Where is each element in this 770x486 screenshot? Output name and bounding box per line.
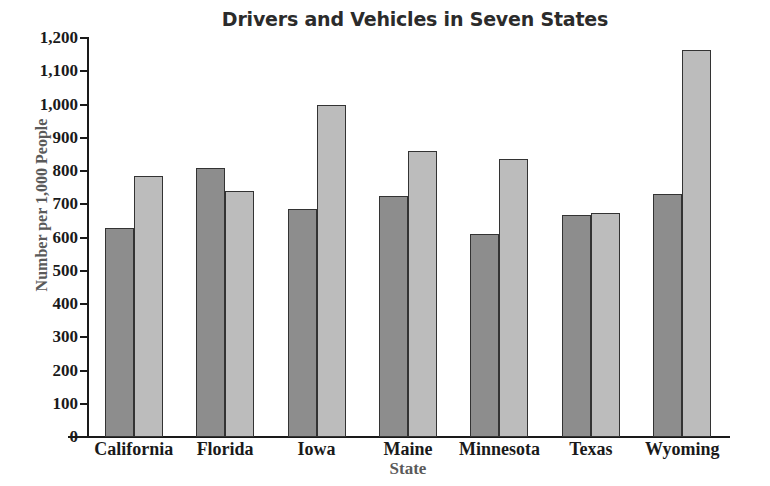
bar-iowa-vehicles: [317, 105, 346, 438]
bar-california-drivers: [105, 228, 134, 437]
bar-maine-vehicles: [408, 151, 437, 437]
bar-wyoming-drivers: [653, 194, 682, 437]
y-axis-tick-label: 100: [2, 394, 78, 414]
bar-wyoming-vehicles: [682, 50, 711, 437]
x-axis-title: State: [88, 459, 728, 479]
bar-minnesota-vehicles: [499, 159, 528, 437]
x-axis-label-wyoming: Wyoming: [625, 439, 740, 460]
bar-florida-drivers: [196, 168, 225, 437]
bar-texas-vehicles: [591, 213, 620, 437]
page-title: Drivers and Vehicles in Seven States: [185, 8, 645, 30]
y-axis-title: Number per 1,000 People: [33, 75, 51, 335]
bar-texas-drivers: [562, 215, 591, 437]
bar-maine-drivers: [379, 196, 408, 437]
bar-california-vehicles: [134, 176, 163, 437]
y-axis-tick-label: 200: [2, 361, 78, 381]
chart-page: Drivers and Vehicles in Seven States 010…: [0, 0, 770, 486]
bar-florida-vehicles: [225, 191, 254, 437]
y-axis-tick-label: 1,200: [2, 28, 78, 48]
bar-minnesota-drivers: [470, 234, 499, 437]
y-axis-tick-label: 0: [2, 427, 78, 447]
plot-area: [88, 38, 728, 437]
bar-iowa-drivers: [288, 209, 317, 437]
